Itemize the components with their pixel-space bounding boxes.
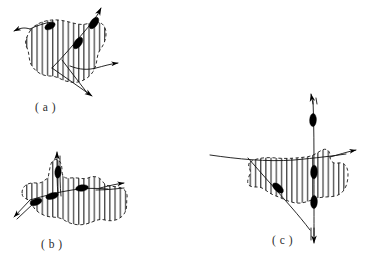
panel-b-label: ( b ) bbox=[41, 238, 63, 250]
panel-b bbox=[14, 152, 136, 234]
panel-c-label: ( c ) bbox=[272, 234, 293, 246]
hatched-blob-b bbox=[14, 152, 136, 234]
figure-canvas bbox=[0, 0, 369, 273]
hatched-blob-a bbox=[18, 12, 118, 94]
panel-a-label: ( a ) bbox=[35, 101, 56, 113]
panel-a bbox=[14, 8, 118, 96]
node-c-1 bbox=[309, 113, 316, 126]
arrow-a-top bbox=[98, 8, 101, 14]
figure-board: ( a ) ( b ) ( c ) bbox=[0, 0, 369, 273]
panel-c bbox=[210, 94, 358, 243]
arrow-c-top bbox=[311, 94, 313, 104]
arrow-c-right bbox=[330, 150, 356, 157]
arrow-a-left bbox=[14, 28, 30, 31]
arrow-c-top-stem bbox=[316, 98, 317, 104]
hatched-blob-c bbox=[240, 142, 358, 212]
